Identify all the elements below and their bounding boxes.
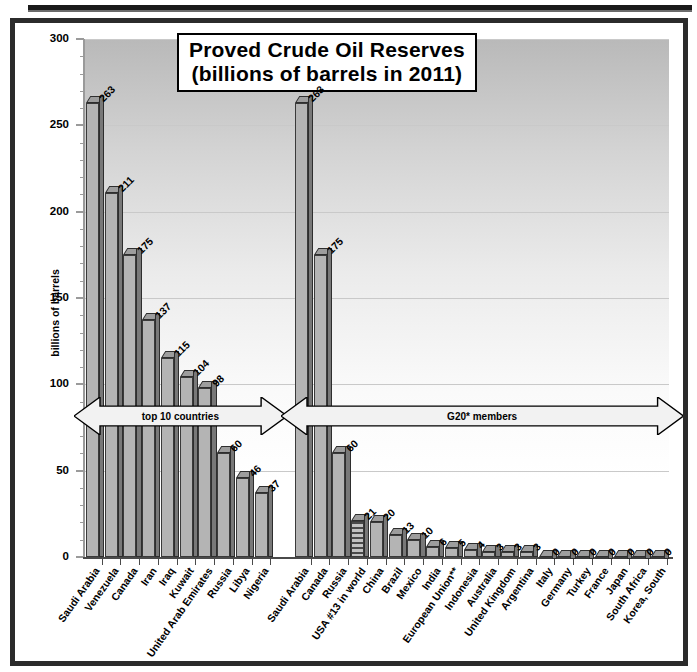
top-rule-gray [28, 10, 692, 12]
x-axis-tick [667, 559, 668, 565]
x-axis-tick [177, 559, 178, 565]
y-axis-minor-tick [80, 333, 84, 334]
bar[interactable] [539, 557, 552, 559]
y-axis-minor-tick [80, 367, 84, 368]
y-axis-line [83, 39, 85, 559]
y-axis-tick-label: 50 [35, 464, 69, 476]
bar[interactable] [161, 358, 174, 557]
bar-side-face [155, 313, 160, 557]
annotation-arrow-g20: G20* members [281, 397, 684, 435]
x-axis-tick [423, 559, 424, 565]
bar[interactable] [576, 557, 589, 559]
y-axis-minor-tick [80, 540, 84, 541]
y-axis-tick-label: 250 [35, 118, 69, 130]
x-axis-tick [536, 559, 537, 565]
y-axis-tick-label: 0 [35, 550, 69, 562]
y-axis-tick-label: 300 [35, 32, 69, 44]
x-axis-tick [252, 559, 253, 565]
chart-frame-inner: Proved Crude Oil Reserves (billions of b… [15, 23, 683, 661]
x-axis-tick [270, 559, 271, 565]
y-axis-tick-label: 150 [35, 291, 69, 303]
y-axis-minor-tick [80, 263, 84, 264]
x-axis-tick [592, 559, 593, 565]
x-axis-tick [573, 559, 574, 565]
bar[interactable] [614, 557, 627, 559]
x-axis-tick [158, 559, 159, 565]
bar[interactable] [332, 453, 345, 557]
y-axis-minor-tick [80, 281, 84, 282]
chart-frame: Proved Crude Oil Reserves (billions of b… [10, 18, 688, 666]
bar[interactable] [426, 547, 439, 557]
chart-title-line1: Proved Crude Oil Reserves [189, 38, 465, 62]
bar[interactable] [217, 453, 230, 557]
y-axis-major-tick [76, 383, 84, 385]
bar[interactable] [501, 552, 514, 557]
bar-side-face [345, 446, 350, 557]
y-axis-minor-tick [80, 91, 84, 92]
y-axis-minor-tick [80, 350, 84, 351]
x-axis-tick [348, 559, 349, 565]
bar[interactable] [370, 522, 383, 557]
x-axis-tick [139, 559, 140, 565]
y-axis-major-tick [76, 211, 84, 213]
bar[interactable] [295, 103, 308, 557]
y-axis-label: billions of barrels [49, 253, 61, 373]
bar-side-face [118, 186, 123, 557]
x-axis-tick [367, 559, 368, 565]
x-axis-tick [629, 559, 630, 565]
y-axis-minor-tick [80, 246, 84, 247]
x-axis-tick [648, 559, 649, 565]
x-axis-tick [214, 559, 215, 565]
bar[interactable] [142, 320, 155, 557]
bar[interactable] [86, 103, 99, 557]
bar[interactable] [651, 557, 664, 559]
x-axis-tick [517, 559, 518, 565]
bar[interactable] [105, 193, 118, 557]
chart-canvas: Proved Crude Oil Reserves (billions of b… [17, 25, 685, 663]
bar[interactable] [445, 548, 458, 557]
bar[interactable] [482, 552, 495, 557]
bar[interactable] [632, 557, 645, 559]
bar[interactable] [520, 552, 533, 557]
bar[interactable] [389, 535, 402, 557]
x-axis-tick [233, 559, 234, 565]
x-axis-tick [461, 559, 462, 565]
x-axis-tick [498, 559, 499, 565]
x-axis-tick [386, 559, 387, 565]
bar-side-face [174, 351, 179, 557]
y-axis-tick-label: 100 [35, 377, 69, 389]
bar[interactable] [595, 557, 608, 559]
gridline [85, 125, 669, 126]
x-axis-tick [195, 559, 196, 565]
chart-title-line2: (billions of barrels in 2011) [189, 62, 465, 86]
x-axis-tick [479, 559, 480, 565]
bar-side-face [99, 96, 104, 557]
y-axis-major-tick [76, 297, 84, 299]
gridline [85, 298, 669, 299]
annotation-arrow-label: top 10 countries [74, 411, 287, 422]
x-axis-tick [329, 559, 330, 565]
x-axis-tick [611, 559, 612, 565]
y-axis-minor-tick [80, 143, 84, 144]
x-axis-tick [120, 559, 121, 565]
bar-side-face [249, 471, 254, 557]
bar[interactable] [255, 493, 268, 557]
bar-side-face [230, 446, 235, 557]
y-axis-minor-tick [80, 74, 84, 75]
y-axis-minor-tick [80, 56, 84, 57]
bar[interactable] [351, 521, 364, 557]
gridline [85, 212, 669, 213]
chart-screenshot: Proved Crude Oil Reserves (billions of b… [0, 0, 697, 672]
y-axis-minor-tick [80, 315, 84, 316]
bar[interactable] [407, 540, 420, 557]
bar[interactable] [236, 478, 249, 557]
y-axis-minor-tick [80, 229, 84, 230]
x-axis-tick [442, 559, 443, 565]
y-axis-minor-tick [80, 488, 84, 489]
y-axis-major-tick [76, 470, 84, 472]
annotation-arrow-label: G20* members [281, 411, 684, 422]
bar[interactable] [464, 550, 477, 557]
bar[interactable] [557, 557, 570, 559]
y-axis-minor-tick [80, 453, 84, 454]
y-axis-minor-tick [80, 505, 84, 506]
